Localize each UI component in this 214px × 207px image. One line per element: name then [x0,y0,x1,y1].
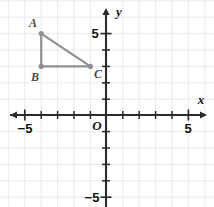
coordinate-plane-figure: A B C −5 5 5 −5 O y x [0,0,214,207]
vertex-label-a: A [28,16,37,30]
x-axis-left-arrow [10,111,17,118]
vertex-label-c: C [94,67,103,81]
vertex-label-b: B [30,70,39,84]
y-axis [101,8,112,207]
x-axis-right-arrow [200,111,207,118]
vertex-point-a [39,31,44,36]
y-tick-label-5: 5 [91,26,98,41]
y-axis-top-arrow [102,8,109,15]
coordinate-plane-svg: A B C −5 5 5 −5 O y x [0,0,214,207]
vertex-point-b [39,64,44,69]
y-tick-label-neg5: −5 [85,190,100,205]
y-axis-label: y [114,4,122,19]
vertex-point-c [88,64,93,69]
x-axis [10,110,207,121]
origin-label: O [92,118,102,133]
x-tick-label-5: 5 [184,121,191,136]
x-axis-label: x [197,92,205,107]
x-tick-label-neg5: −5 [18,121,33,136]
